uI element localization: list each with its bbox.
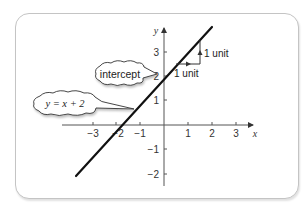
x-tick-label: 3 (233, 128, 239, 139)
run-arrow-icon (186, 62, 191, 67)
x-tick-label: 1 (185, 128, 191, 139)
y-axis: 3 2 1 −1 −2 y (148, 25, 167, 186)
graph-figure: −3 −2 −1 1 2 3 x 3 2 1 −1 −2 y (0, 0, 307, 213)
x-axis-label: x (252, 128, 258, 139)
coordinate-plane: −3 −2 −1 1 2 3 x 3 2 1 −1 −2 y (0, 0, 307, 213)
intercept-callout-text: intercept (100, 68, 140, 80)
y-tick-label: −2 (148, 169, 160, 180)
x-tick-label: 2 (209, 128, 215, 139)
rise-arrow-icon (198, 50, 203, 55)
equation-callout-text: y = x + 2 (44, 98, 85, 109)
x-tick-label: −3 (87, 128, 99, 139)
rise-label: 1 unit (204, 48, 229, 59)
x-axis: −3 −2 −1 1 2 3 x (62, 122, 258, 139)
y-tick-label: −1 (148, 144, 160, 155)
x-tick-label: −1 (134, 128, 146, 139)
run-label: 1 unit (174, 68, 199, 79)
y-tick-label: 3 (153, 47, 159, 58)
y-axis-label: y (153, 25, 159, 36)
y-tick-label: 1 (153, 95, 159, 106)
